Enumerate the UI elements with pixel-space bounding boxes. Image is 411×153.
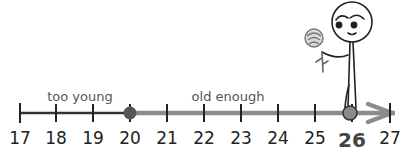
tick-label-26-highlighted: 26 [338, 128, 366, 152]
old-enough-label: old enough [192, 89, 265, 104]
stick-figure-icon [316, 2, 372, 108]
position-dot-26 [343, 106, 357, 120]
tick-label-24: 24 [267, 128, 289, 148]
too-young-label: too young [47, 89, 113, 104]
tick-label-23: 23 [230, 128, 252, 148]
tick-label-19: 19 [82, 128, 104, 148]
age-number-line-diagram: 17 18 19 20 21 22 23 24 25 26 27 too you… [0, 0, 411, 153]
tick-label-25: 25 [304, 128, 326, 148]
tick-label-18: 18 [45, 128, 67, 148]
tick-label-27: 27 [379, 128, 401, 148]
number-line-svg: 17 18 19 20 21 22 23 24 25 26 27 too you… [0, 0, 411, 153]
tick-label-20: 20 [119, 128, 141, 148]
threshold-dot-20 [124, 107, 137, 120]
tick-label-21: 21 [156, 128, 178, 148]
tick-label-17: 17 [9, 128, 31, 148]
rose-icon [305, 29, 323, 47]
tick-label-22: 22 [193, 128, 215, 148]
